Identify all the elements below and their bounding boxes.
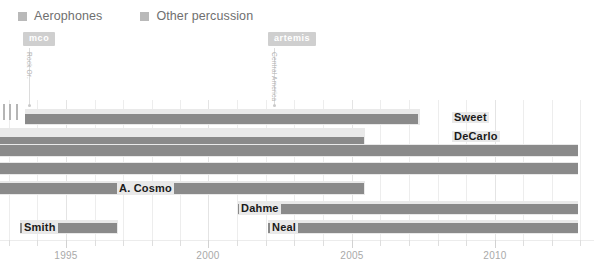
chart-row [0, 144, 594, 157]
bar-label: Sweet [452, 112, 489, 123]
axis-tick [152, 240, 153, 246]
chart-row: Sweet [0, 109, 594, 125]
axis-tick [438, 240, 439, 246]
x-axis: 1995200020052010 [0, 240, 594, 269]
axis-tick [552, 240, 553, 246]
annotation-vertical-label: Central America [271, 52, 278, 101]
bar-other-percussion[interactable] [238, 204, 578, 214]
annotation-badge[interactable]: artemis [268, 32, 316, 46]
axis-tick [323, 240, 324, 246]
axis-label: 2010 [483, 250, 506, 261]
legend-swatch-icon [140, 12, 149, 21]
axis-tick [237, 240, 238, 246]
legend-item-other-percussion[interactable]: Other percussion [140, 9, 253, 23]
axis-label: 1995 [54, 250, 77, 261]
axis-tick [580, 240, 581, 246]
axis-tick [95, 240, 96, 246]
axis-tick [352, 240, 353, 248]
bar-label: Smith [22, 222, 58, 233]
bar-label: DeCarlo [452, 131, 500, 142]
axis-tick [294, 240, 295, 246]
axis-tick [495, 240, 496, 248]
axis-tick [523, 240, 524, 246]
bar-label: Dahme [239, 203, 281, 214]
plot-area: SweetDeCarloA. CosmoDahmeNealSmith [0, 100, 594, 240]
bar-other-percussion[interactable] [0, 145, 578, 156]
chart-row: DeCarlo [0, 128, 594, 144]
chart-root: Aerophones Other percussion mco Rock Or.… [0, 0, 594, 269]
legend-item-aerophones[interactable]: Aerophones [18, 9, 102, 23]
axis-tick [66, 240, 67, 248]
legend-item-label: Other percussion [156, 9, 253, 23]
axis-tick [409, 240, 410, 246]
annotation-badge[interactable]: mco [23, 32, 55, 46]
axis-rule [0, 240, 594, 241]
chart-row [0, 162, 594, 175]
legend-item-label: Aerophones [34, 9, 102, 23]
axis-tick [9, 240, 10, 246]
axis-tick [380, 240, 381, 246]
bar-other-percussion[interactable] [25, 114, 418, 124]
legend: Aerophones Other percussion [18, 8, 291, 24]
bar-other-percussion[interactable] [0, 163, 578, 174]
axis-tick [123, 240, 124, 246]
axis-label: 2000 [196, 250, 219, 261]
bar-label: A. Cosmo [117, 183, 174, 194]
axis-tick [208, 240, 209, 248]
axis-tick [37, 240, 38, 246]
chart-row: Smith [0, 220, 594, 234]
chart-row: A. Cosmo [0, 181, 594, 195]
annotation-vertical-label: Rock Or. [26, 52, 33, 79]
axis-label: 2005 [340, 250, 363, 261]
chart-row: Dahme [0, 201, 594, 215]
axis-tick [466, 240, 467, 246]
axis-tick [180, 240, 181, 246]
bar-other-percussion[interactable] [0, 183, 364, 194]
axis-tick [266, 240, 267, 246]
legend-swatch-icon [18, 12, 27, 21]
